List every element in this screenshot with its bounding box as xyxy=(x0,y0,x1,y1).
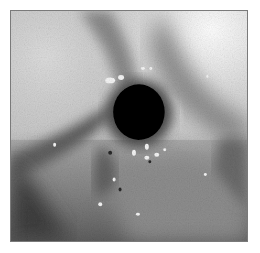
endoscopy-photo xyxy=(11,11,247,241)
photo-frame xyxy=(10,10,248,242)
